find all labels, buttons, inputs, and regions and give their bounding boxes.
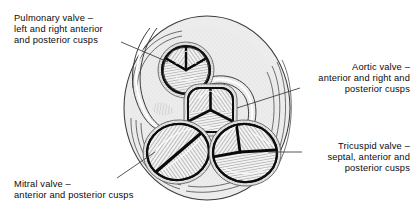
figure-page: Pulmonary valve – left and right anterio… <box>0 0 420 214</box>
label-aortic-line-1: Aortic valve – <box>318 62 410 73</box>
label-aortic-valve: Aortic valve – anterior and right and po… <box>318 62 410 96</box>
label-pulmonary-line-3: and posterior cusps <box>14 35 103 46</box>
label-pulmonary-line-2: left and right anterior <box>14 24 103 35</box>
label-mitral-line-2: anterior and posterior cusps <box>14 190 133 201</box>
label-tricuspid-line-3: posterior cusps <box>327 163 410 174</box>
label-aortic-line-2: anterior and right and <box>318 73 410 84</box>
label-aortic-line-3: posterior cusps <box>318 84 410 95</box>
label-mitral-valve: Mitral valve – anterior and posterior cu… <box>14 179 133 201</box>
label-tricuspid-line-2: septal, anterior and <box>327 152 410 163</box>
label-pulmonary-line-1: Pulmonary valve – <box>14 13 103 24</box>
label-pulmonary-valve: Pulmonary valve – left and right anterio… <box>14 13 103 47</box>
label-tricuspid-valve: Tricuspid valve – septal, anterior and p… <box>327 141 410 175</box>
label-mitral-line-1: Mitral valve – <box>14 179 133 190</box>
label-tricuspid-line-1: Tricuspid valve – <box>327 141 410 152</box>
